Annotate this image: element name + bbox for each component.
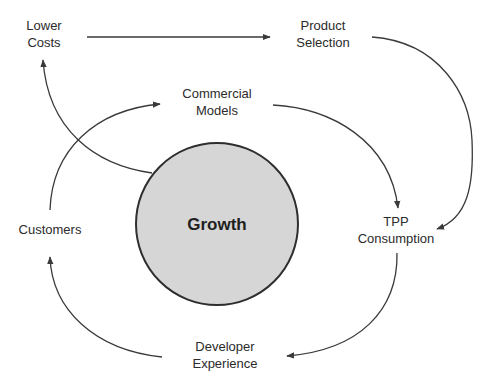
node-customers: Customers	[19, 222, 82, 237]
growth-node: Growth	[136, 143, 298, 305]
growth-flywheel-diagram: Growth Lower Costs Product Selection Com…	[0, 0, 488, 387]
node-product-selection: Product Selection	[296, 18, 349, 50]
node-commercial-models: Commercial Models	[182, 86, 251, 118]
product-selection-line1: Product	[301, 18, 346, 33]
node-tpp-consumption: TPP Consumption	[358, 214, 435, 246]
growth-label: Growth	[187, 215, 247, 234]
developer-experience-line2: Experience	[192, 356, 257, 371]
edge-product-selection-to-tpp-consumption	[372, 37, 472, 229]
edge-developer-experience-to-customers	[50, 257, 162, 357]
edge-growth-to-lower-costs	[43, 60, 152, 173]
tpp-consumption-line1: TPP	[383, 214, 408, 229]
commercial-models-line1: Commercial	[182, 86, 251, 101]
developer-experience-line1: Developer	[195, 339, 255, 354]
edge-tpp-consumption-to-developer-experience	[287, 253, 397, 356]
tpp-consumption-line2: Consumption	[358, 231, 435, 246]
node-lower-costs: Lower Costs	[26, 18, 62, 50]
product-selection-line2: Selection	[296, 35, 349, 50]
customers-label: Customers	[19, 222, 82, 237]
node-developer-experience: Developer Experience	[192, 339, 257, 371]
commercial-models-line2: Models	[196, 103, 238, 118]
lower-costs-line2: Costs	[27, 35, 61, 50]
lower-costs-line1: Lower	[26, 18, 62, 33]
